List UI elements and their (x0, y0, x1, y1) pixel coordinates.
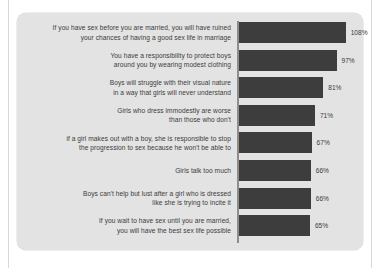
row-bar-group: 97% (239, 50, 355, 71)
bar (239, 132, 312, 153)
row-bar-group: 71% (239, 105, 333, 126)
row-category-label-line1: You have a responsibility to protect boy… (23, 51, 231, 60)
row-category-label-line1: Girls talk too much (23, 166, 231, 175)
row-category-label-line1: Boys will struggle with their visual nat… (23, 78, 231, 87)
row-category-label-line2: the progression to sex because he won't … (23, 143, 231, 152)
chart-row: Girls who dress immodestly are worsethan… (17, 105, 363, 126)
bar (239, 22, 346, 43)
row-category-label: If you wait to have sex until you are ma… (23, 216, 231, 234)
row-bar-group: 66% (239, 160, 329, 181)
bar (239, 160, 311, 181)
row-category-label-line1: Boys can't help but lust after a girl wh… (23, 189, 231, 198)
bar (239, 77, 323, 98)
chart-row: You have a responsibility to protect boy… (17, 50, 363, 71)
bar (239, 188, 311, 209)
row-bar-group: 81% (239, 77, 341, 98)
bar-value-label: 81% (328, 84, 341, 91)
row-category-label-line1: If you have sex before you are married, … (23, 23, 231, 32)
row-category-label-line1: Girls who dress immodestly are worse (23, 106, 231, 115)
row-category-label: Girls who dress immodestly are worsethan… (23, 106, 231, 124)
chart-panel: If you have sex before you are married, … (17, 13, 363, 250)
chart-plot-area: If you have sex before you are married, … (17, 13, 363, 250)
chart-row: Boys will struggle with their visual nat… (17, 77, 363, 98)
chart-row: If you wait to have sex until you are ma… (17, 215, 363, 236)
row-category-label-line2: around you by wearing modest clothing (23, 60, 231, 69)
page-frame-rule-right (371, 0, 372, 268)
chart-row: if a girl makes out with a boy, she is r… (17, 132, 363, 153)
row-category-label-line2: like she is trying to incite it (23, 198, 231, 207)
row-category-label-line1: If you wait to have sex until you are ma… (23, 216, 231, 225)
chart-row: Boys can't help but lust after a girl wh… (17, 188, 363, 209)
bar-value-label: 66% (316, 195, 329, 202)
row-bar-group: 65% (239, 215, 328, 236)
row-bar-group: 67% (239, 132, 330, 153)
bar-value-label: 66% (316, 167, 329, 174)
row-category-label-line1: if a girl makes out with a boy, she is r… (23, 134, 231, 143)
row-category-label: If you have sex before you are married, … (23, 23, 231, 41)
row-category-label: if a girl makes out with a boy, she is r… (23, 134, 231, 152)
bar-value-label: 65% (315, 222, 328, 229)
row-bar-group: 66% (239, 188, 329, 209)
row-bar-group: 108% (239, 22, 368, 43)
row-category-label-line2: your chances of having a good sex life i… (23, 33, 231, 42)
bar-value-label: 97% (342, 57, 355, 64)
bar (239, 50, 337, 71)
row-category-label: Boys will struggle with their visual nat… (23, 78, 231, 96)
page-frame-rule-left (8, 0, 9, 268)
row-category-label: Boys can't help but lust after a girl wh… (23, 189, 231, 207)
bar-value-label: 108% (351, 29, 368, 36)
bar-value-label: 71% (320, 112, 333, 119)
bar-value-label: 67% (317, 139, 330, 146)
chart-row: If you have sex before you are married, … (17, 22, 363, 43)
row-category-label-line2: you will have the best sex life possible (23, 226, 231, 235)
row-category-label: Girls talk too much (23, 166, 231, 175)
bar (239, 215, 310, 236)
row-category-label-line2: than those who don't (23, 115, 231, 124)
row-category-label: You have a responsibility to protect boy… (23, 51, 231, 69)
chart-page: If you have sex before you are married, … (0, 0, 380, 268)
row-category-label-line2: in a way that girls will never understan… (23, 88, 231, 97)
bar (239, 105, 315, 126)
chart-row: Girls talk too much66% (17, 160, 363, 181)
